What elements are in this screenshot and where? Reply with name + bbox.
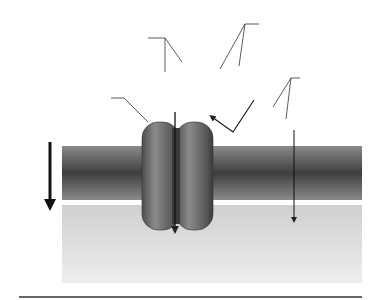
diagram-canvas [0,0,382,300]
blocked-bounce-arrow [212,100,254,132]
leader-lines [111,24,300,122]
membrane-diffusion-diagram [0,0,382,300]
bottom-divider [19,296,362,298]
membrane-channel-protein [142,122,213,230]
